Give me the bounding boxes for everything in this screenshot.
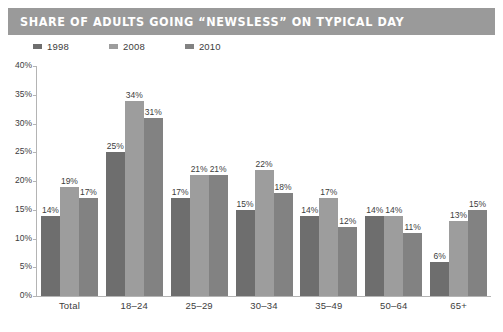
bar-value-label: 14%: [301, 205, 318, 215]
y-tick-label: 0%: [20, 290, 32, 300]
bar-2008-25–29[interactable]: 21%: [190, 66, 209, 296]
bar-2008-18–24[interactable]: 34%: [125, 66, 144, 296]
bar-2008-Total[interactable]: 19%: [60, 66, 79, 296]
y-tick-label: 35%: [15, 89, 32, 99]
x-axis-label-35–49: 35–49: [296, 300, 361, 311]
bar-rect: [300, 216, 319, 297]
bar-value-label: 14%: [42, 205, 59, 215]
bar-rect: [60, 187, 79, 296]
chart-page: SHARE OF ADULTS GOING “NEWSLESS” ON TYPI…: [0, 0, 503, 332]
y-tick-label: 40%: [15, 60, 32, 70]
bar-value-label: 15%: [469, 199, 486, 209]
bar-value-label: 15%: [236, 199, 253, 209]
bar-2010-30–34[interactable]: 18%: [274, 66, 293, 296]
bar-2008-50–64[interactable]: 14%: [384, 66, 403, 296]
legend-label: 1998: [47, 41, 69, 52]
page-title: SHARE OF ADULTS GOING “NEWSLESS” ON TYPI…: [8, 14, 404, 29]
bar-value-label: 11%: [405, 222, 421, 232]
bar-1998-30–34[interactable]: 15%: [236, 66, 255, 296]
bar-value-label: 17%: [80, 187, 97, 197]
bar-rect: [190, 175, 209, 296]
x-axis-label-50–64: 50–64: [361, 300, 426, 311]
x-axis-labels: Total18–2425–2930–3435–4950–6465+: [37, 300, 491, 311]
bar-group-25–29: 17%21%21%: [167, 66, 232, 296]
y-tick-label: 20%: [15, 175, 32, 185]
bar-value-label: 17%: [320, 187, 337, 197]
bar-1998-35–49[interactable]: 14%: [300, 66, 319, 296]
title-banner: SHARE OF ADULTS GOING “NEWSLESS” ON TYPI…: [8, 8, 495, 35]
bar-rect: [430, 262, 449, 297]
y-tick-label: 10%: [15, 233, 32, 243]
bar-2010-65+[interactable]: 15%: [468, 66, 487, 296]
bar-rect: [468, 210, 487, 296]
bar-rect: [209, 175, 228, 296]
bar-value-label: 6%: [433, 251, 445, 261]
y-tick-label: 5%: [20, 261, 32, 271]
bar-rect: [125, 101, 144, 297]
bar-2008-30–34[interactable]: 22%: [255, 66, 274, 296]
y-tick-label: 30%: [15, 118, 32, 128]
bar-rect: [41, 216, 60, 297]
bar-rect: [106, 152, 125, 296]
bar-value-label: 22%: [255, 159, 272, 169]
legend-item-2008[interactable]: 2008: [109, 41, 145, 52]
bar-2010-25–29[interactable]: 21%: [209, 66, 228, 296]
bar-rect: [338, 227, 357, 296]
legend-label: 2010: [199, 41, 221, 52]
x-axis-label-25–29: 25–29: [167, 300, 232, 311]
plot-area: 0%5%10%15%20%25%30%35%40% 14%19%17%25%34…: [37, 66, 491, 296]
bar-value-label: 13%: [450, 210, 467, 220]
bar-1998-50–64[interactable]: 14%: [365, 66, 384, 296]
bar-2008-35–49[interactable]: 17%: [319, 66, 338, 296]
bar-value-label: 25%: [107, 141, 124, 151]
x-axis-label-18–24: 18–24: [102, 300, 167, 311]
bar-group-Total: 14%19%17%: [37, 66, 102, 296]
bar-group-65+: 6%13%15%: [426, 66, 491, 296]
bar-2010-50–64[interactable]: 11%: [403, 66, 422, 296]
legend-item-2010[interactable]: 2010: [185, 41, 221, 52]
bar-rect: [274, 193, 293, 297]
bar-group-35–49: 14%17%12%: [296, 66, 361, 296]
bar-value-label: 34%: [126, 90, 143, 100]
legend-item-1998[interactable]: 1998: [33, 41, 69, 52]
x-axis-label-30–34: 30–34: [232, 300, 297, 311]
bar-2008-65+[interactable]: 13%: [449, 66, 468, 296]
bar-value-label: 18%: [274, 182, 291, 192]
bar-rect: [449, 221, 468, 296]
bar-1998-25–29[interactable]: 17%: [171, 66, 190, 296]
bar-2010-18–24[interactable]: 31%: [144, 66, 163, 296]
bar-rect: [236, 210, 255, 296]
legend-label: 2008: [123, 41, 145, 52]
bar-2010-35–49[interactable]: 12%: [338, 66, 357, 296]
bar-value-label: 14%: [366, 205, 383, 215]
bar-value-label: 19%: [61, 176, 78, 186]
legend-swatch-1998-icon: [33, 44, 42, 49]
bar-rect: [79, 198, 98, 296]
bar-1998-Total[interactable]: 14%: [41, 66, 60, 296]
bar-rect: [319, 198, 338, 296]
bar-rect: [171, 198, 190, 296]
x-axis-label-65+: 65+: [426, 300, 491, 311]
bar-groups: 14%19%17%25%34%31%17%21%21%15%22%18%14%1…: [37, 66, 491, 296]
bar-value-label: 14%: [385, 205, 402, 215]
bar-group-18–24: 25%34%31%: [102, 66, 167, 296]
y-tick-label: 15%: [15, 204, 32, 214]
bar-2010-Total[interactable]: 17%: [79, 66, 98, 296]
bar-rect: [403, 233, 422, 296]
legend-swatch-2010-icon: [185, 44, 194, 49]
chart-legend: 199820082010: [33, 40, 261, 53]
y-tick-mark: [33, 296, 37, 297]
bar-value-label: 21%: [210, 164, 227, 174]
bar-rect: [144, 118, 163, 296]
y-tick-label: 25%: [15, 146, 32, 156]
bar-rect: [255, 170, 274, 297]
legend-swatch-2008-icon: [109, 44, 118, 49]
bar-1998-65+[interactable]: 6%: [430, 66, 449, 296]
bar-value-label: 17%: [172, 187, 189, 197]
bar-value-label: 12%: [339, 216, 356, 226]
bar-group-30–34: 15%22%18%: [232, 66, 297, 296]
bar-value-label: 21%: [191, 164, 208, 174]
bar-value-label: 31%: [145, 107, 162, 117]
bar-1998-18–24[interactable]: 25%: [106, 66, 125, 296]
bar-rect: [365, 216, 384, 297]
